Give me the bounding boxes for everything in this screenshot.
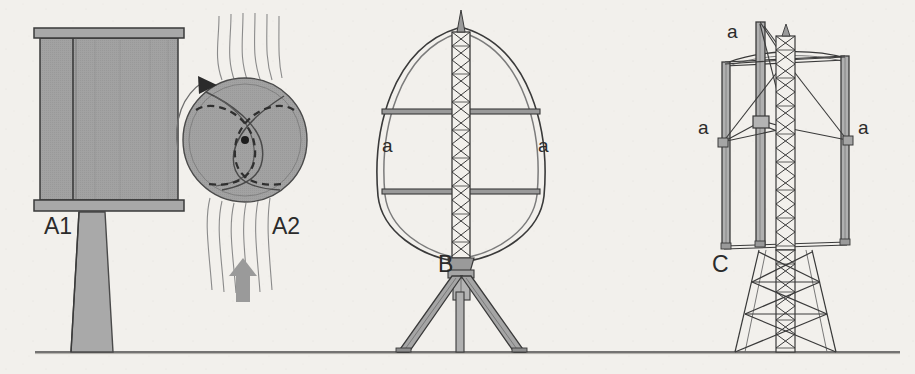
figure-canvas: A1 xyxy=(0,0,915,374)
label-blade-c-top: a xyxy=(727,21,738,42)
ground-line xyxy=(35,352,900,354)
a2-hub xyxy=(241,136,249,144)
label-blade-c-left: a xyxy=(698,117,709,138)
c-blade-left xyxy=(722,62,730,248)
a1-rotor-body xyxy=(40,38,178,200)
label-a2: A2 xyxy=(272,213,300,239)
label-b: B xyxy=(438,251,453,277)
label-blade-b-right: a xyxy=(538,135,549,156)
a1-bottom-end-plate xyxy=(34,200,184,211)
a1-top-end-plate xyxy=(34,28,184,38)
label-c: C xyxy=(712,251,729,277)
label-a1: A1 xyxy=(44,213,72,239)
label-blade-b-left: a xyxy=(382,135,393,156)
c-blade-right xyxy=(841,56,849,244)
b-lattice-mast xyxy=(448,10,474,272)
c-lattice-mast-upper xyxy=(776,24,795,250)
label-blade-c-right: a xyxy=(858,117,869,138)
wind-turbine-figure: A1 xyxy=(0,0,915,374)
